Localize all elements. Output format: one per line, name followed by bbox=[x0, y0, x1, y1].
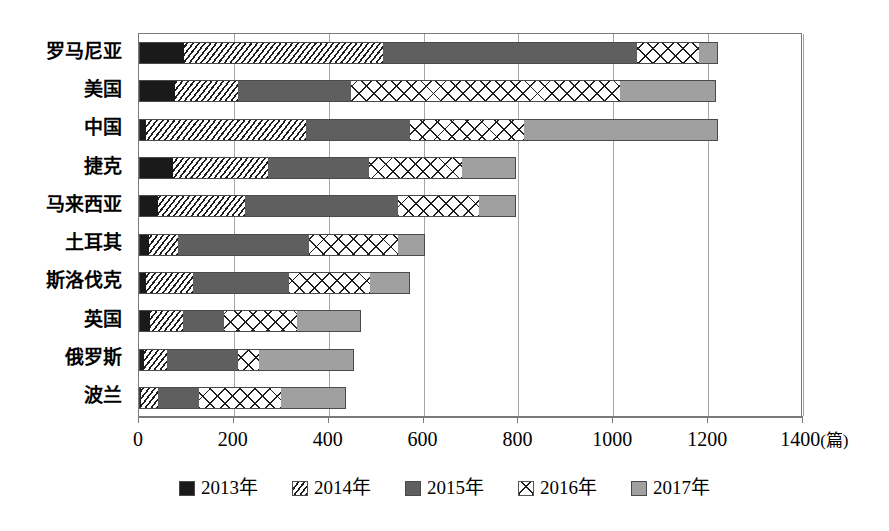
tickmark-400 bbox=[328, 416, 329, 423]
bar-segment bbox=[224, 310, 298, 332]
bar-segment bbox=[139, 310, 150, 332]
x-tick-label-200: 200 bbox=[218, 427, 248, 451]
category-label: 中国 bbox=[0, 118, 122, 137]
x-tick-label-1200: 1200 bbox=[687, 427, 727, 451]
bar-row bbox=[139, 234, 803, 256]
bar-segment bbox=[259, 349, 354, 371]
bar-segment bbox=[139, 195, 158, 217]
legend-swatch-2014-icon bbox=[292, 481, 308, 496]
bar-segment bbox=[369, 157, 462, 179]
bar-segment bbox=[158, 387, 199, 409]
bar-segment bbox=[370, 272, 410, 294]
bar-segment bbox=[351, 80, 620, 102]
bar-row bbox=[139, 119, 803, 141]
bar-row bbox=[139, 157, 803, 179]
tickmark-600 bbox=[423, 416, 424, 423]
bar-segment bbox=[183, 310, 224, 332]
bar-segment bbox=[141, 387, 158, 409]
legend-item[interactable]: 2013年 bbox=[179, 477, 258, 499]
legend-item[interactable]: 2014年 bbox=[292, 477, 371, 499]
bar-segment bbox=[199, 387, 281, 409]
category-label: 英国 bbox=[0, 310, 122, 329]
tickmark-200 bbox=[233, 416, 234, 423]
bar-segment bbox=[139, 234, 149, 256]
bar-segment bbox=[479, 195, 516, 217]
bar-row bbox=[139, 195, 803, 217]
bar-segment bbox=[167, 349, 238, 371]
bar-segment bbox=[383, 42, 637, 64]
legend-item[interactable]: 2017年 bbox=[631, 477, 710, 499]
bar-segment bbox=[238, 349, 259, 371]
bar-segment bbox=[524, 119, 718, 141]
bar-segment bbox=[309, 234, 398, 256]
category-label: 斯洛伐克 bbox=[0, 271, 122, 290]
x-tick-label-800: 800 bbox=[502, 427, 532, 451]
x-axis-tick-labels: 0200400600800100012001400(篇) bbox=[0, 427, 889, 455]
category-label: 美国 bbox=[0, 80, 122, 99]
tickmark-800 bbox=[517, 416, 518, 423]
bar-row bbox=[139, 310, 803, 332]
legend-label: 2015年 bbox=[427, 477, 484, 499]
bar-segment bbox=[238, 80, 351, 102]
bar-segment bbox=[173, 157, 268, 179]
legend-label: 2014年 bbox=[314, 477, 371, 499]
tickmark-0 bbox=[138, 416, 139, 423]
legend-swatch-2015-icon bbox=[405, 481, 421, 496]
bar-segment bbox=[699, 42, 718, 64]
bar-segment bbox=[268, 157, 369, 179]
legend-item[interactable]: 2015年 bbox=[405, 477, 484, 499]
x-tick-label-1400: 1400(篇) bbox=[780, 427, 848, 453]
bar-segment bbox=[178, 234, 309, 256]
bar-row bbox=[139, 42, 803, 64]
gridline-1400 bbox=[803, 34, 804, 416]
bar-segment bbox=[144, 349, 167, 371]
legend-label: 2016年 bbox=[540, 477, 597, 499]
tickmark-1000 bbox=[612, 416, 613, 423]
x-tick-label-0: 0 bbox=[133, 427, 143, 451]
legend-label: 2013年 bbox=[201, 477, 258, 499]
chart-figure: 罗马尼亚美国中国捷克马来西亚土耳其斯洛伐克英国俄罗斯波兰 02004006008… bbox=[0, 0, 889, 531]
bar-segment bbox=[297, 310, 361, 332]
legend-item[interactable]: 2016年 bbox=[518, 477, 597, 499]
bar-segment bbox=[150, 310, 182, 332]
bar-segment bbox=[149, 234, 177, 256]
category-label: 捷克 bbox=[0, 157, 122, 176]
category-label: 波兰 bbox=[0, 386, 122, 405]
x-axis-line bbox=[138, 416, 802, 418]
bar-segment bbox=[245, 195, 398, 217]
bar-segment bbox=[193, 272, 289, 294]
bar-segment bbox=[410, 119, 524, 141]
bar-segment bbox=[398, 234, 425, 256]
bar-segment bbox=[398, 195, 479, 217]
tickmark-1400 bbox=[802, 416, 803, 423]
bar-segment bbox=[146, 119, 306, 141]
bar-row bbox=[139, 80, 803, 102]
category-label: 马来西亚 bbox=[0, 195, 122, 214]
bar-segment bbox=[139, 42, 184, 64]
bar-row bbox=[139, 272, 803, 294]
y-axis-category-labels: 罗马尼亚美国中国捷克马来西亚土耳其斯洛伐克英国俄罗斯波兰 bbox=[0, 33, 130, 416]
bar-segment bbox=[139, 119, 146, 141]
bar-segment bbox=[620, 80, 716, 102]
bar-segment bbox=[139, 272, 146, 294]
legend-label: 2017年 bbox=[653, 477, 710, 499]
chart-legend: 2013年2014年2015年2016年2017年 bbox=[0, 470, 889, 506]
x-axis-unit-label: (篇) bbox=[820, 431, 848, 450]
legend-swatch-2016-icon bbox=[518, 481, 534, 496]
x-tick-label-400: 400 bbox=[313, 427, 343, 451]
bar-segment bbox=[462, 157, 517, 179]
bar-row bbox=[139, 387, 803, 409]
plot-area bbox=[138, 33, 802, 416]
x-tick-label-1000: 1000 bbox=[592, 427, 632, 451]
category-label: 罗马尼亚 bbox=[0, 42, 122, 61]
tickmark-1200 bbox=[707, 416, 708, 423]
category-label: 土耳其 bbox=[0, 233, 122, 252]
bar-segment bbox=[184, 42, 383, 64]
bar-segment bbox=[139, 157, 173, 179]
bar-segment bbox=[306, 119, 410, 141]
legend-swatch-2013-icon bbox=[179, 481, 195, 496]
bar-segment bbox=[281, 387, 346, 409]
category-label: 俄罗斯 bbox=[0, 348, 122, 367]
legend-swatch-2017-icon bbox=[631, 481, 647, 496]
bar-segment bbox=[637, 42, 699, 64]
